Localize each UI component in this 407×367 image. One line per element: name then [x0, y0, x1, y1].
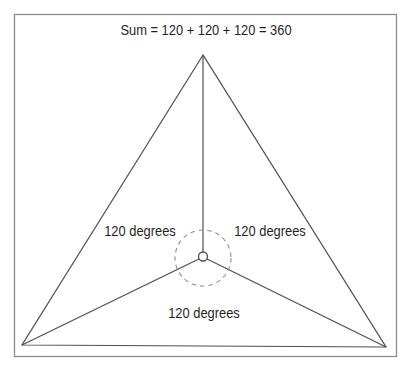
spoke-to-bottom-right: [203, 257, 386, 347]
triangle-outline: [22, 55, 386, 347]
center-point-marker: [199, 252, 208, 261]
angle-label-right: 120 degrees: [234, 224, 306, 239]
sum-equation: Sum = 120 + 120 + 120 = 360: [120, 23, 291, 38]
angle-label-bottom: 120 degrees: [168, 306, 240, 321]
triangle-angle-diagram: Sum = 120 + 120 + 120 = 360 120 degrees …: [0, 0, 407, 367]
angle-label-left: 120 degrees: [104, 224, 176, 239]
